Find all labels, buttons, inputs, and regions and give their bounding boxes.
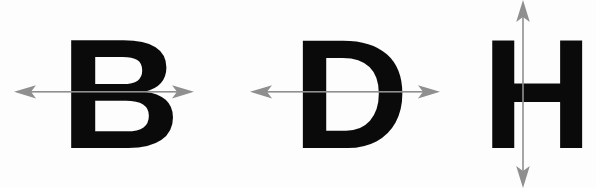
vertical-symmetry-arrow-h <box>512 0 534 188</box>
symmetry-figure: B D H <box>0 0 596 188</box>
arrow-shaft <box>522 10 524 178</box>
horizontal-symmetry-arrow-d <box>250 81 440 103</box>
horizontal-symmetry-arrow-b <box>14 81 194 103</box>
arrow-shaft <box>260 91 430 93</box>
arrow-shaft <box>24 91 184 93</box>
letter-h: H <box>482 16 592 172</box>
